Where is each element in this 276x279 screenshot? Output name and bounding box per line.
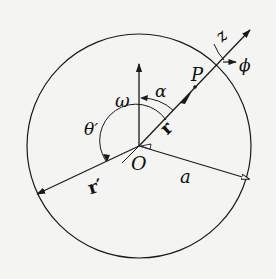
label-r-prime: r′ <box>85 174 105 198</box>
r-vector-arrowhead <box>180 91 192 104</box>
phi-rotation-arc <box>214 44 224 60</box>
label-z: z <box>210 24 232 46</box>
label-alpha: α <box>155 81 167 101</box>
radius-a-line <box>139 146 249 179</box>
point-p-dot <box>193 85 197 89</box>
label-radius-a: a <box>180 166 191 187</box>
label-phi: ϕ <box>239 55 251 75</box>
alpha-arc-arrowhead <box>140 95 148 101</box>
label-origin: O <box>131 152 147 174</box>
sphere-diagram: z ϕ P ω α θ′ r r′ O a <box>0 0 276 279</box>
label-theta-prime: θ′ <box>84 119 98 139</box>
label-r: r <box>155 117 177 139</box>
label-omega: ω <box>115 90 130 111</box>
label-p: P <box>190 64 204 85</box>
